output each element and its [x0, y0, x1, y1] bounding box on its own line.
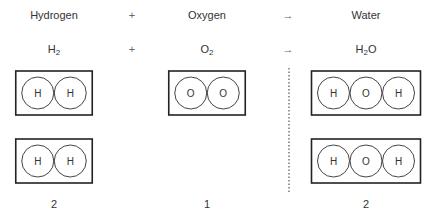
hydrogen-molecule: HH [16, 71, 93, 115]
atom-label: O [219, 88, 227, 99]
atom-label: O [187, 88, 195, 99]
oxygen-molecule: OO [169, 71, 246, 115]
atom-label: H [330, 156, 337, 167]
oxygen-count: 1 [204, 198, 210, 210]
atom-label: H [34, 156, 41, 167]
water-molecule: HOH [312, 71, 421, 115]
hydrogen-molecule: HH [16, 139, 93, 183]
hydrogen-count: 2 [51, 198, 57, 210]
water-molecule: HOH [312, 139, 421, 183]
molecule-diagram: HHHHOOHOHHOH [0, 0, 436, 221]
atom-label: H [395, 156, 402, 167]
atom-label: H [67, 156, 74, 167]
atom-label: O [362, 156, 370, 167]
water-count: 2 [363, 198, 369, 210]
atom-label: O [362, 88, 370, 99]
atom-label: H [34, 88, 41, 99]
atom-label: H [67, 88, 74, 99]
atom-label: H [395, 88, 402, 99]
atom-label: H [330, 88, 337, 99]
